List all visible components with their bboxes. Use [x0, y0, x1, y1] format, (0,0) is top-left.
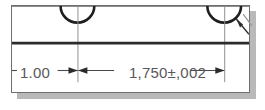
dim-left-arrowhead-icon — [69, 67, 78, 74]
dim-right-arrowhead-left-icon — [78, 67, 87, 74]
dim-right-arrowhead-right-icon — [215, 67, 224, 74]
dimension-label-1: 1.00 — [20, 64, 50, 81]
dimension-label-2: 1,750±,002 — [129, 64, 206, 81]
drawing-frame: 1.00 1,750±,002 — [11, 5, 250, 93]
drawing-screenshot: 1.00 1,750±,002 — [0, 0, 265, 110]
leader-tail-outside-frame — [243, 14, 259, 30]
